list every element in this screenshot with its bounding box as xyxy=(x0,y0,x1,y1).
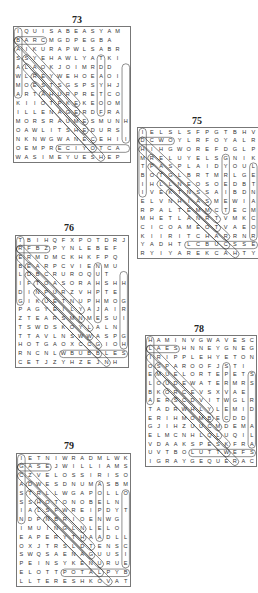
grid-letter: G xyxy=(113,516,122,525)
grid-letter: C xyxy=(240,206,249,215)
grid-letter: N xyxy=(94,262,103,271)
grid-letter: E xyxy=(94,315,103,324)
grid-letter: E xyxy=(26,560,35,569)
grid-letter: U xyxy=(104,551,113,560)
grid-letter: L xyxy=(239,397,247,406)
grid-letter: T xyxy=(97,54,105,63)
grid-letter: C xyxy=(59,262,68,271)
grid-letter: I xyxy=(240,197,249,206)
grid-letter: S xyxy=(166,128,175,137)
grid-letter: E xyxy=(231,449,239,458)
grid-letter: L xyxy=(22,63,30,72)
grid-letter: A xyxy=(87,533,96,542)
grid-letter: E xyxy=(80,135,88,144)
grid-letter: O xyxy=(95,577,104,586)
grid-letter: E xyxy=(180,379,188,388)
grid-letter: A xyxy=(175,249,184,258)
grid-letter: I xyxy=(240,154,249,163)
grid-letter: I xyxy=(113,135,121,144)
grid-letter: N xyxy=(68,245,77,254)
grid-letter: V xyxy=(156,197,165,206)
grid-letter: L xyxy=(197,431,205,440)
grid-letter: E xyxy=(156,154,165,163)
grid-letter: D xyxy=(156,241,165,250)
grid-letter: A xyxy=(154,345,162,354)
grid-letter: V xyxy=(221,223,230,232)
grid-letter: O xyxy=(105,99,113,108)
grid-letter: M xyxy=(138,215,147,224)
grid-letter: A xyxy=(31,63,39,72)
grid-letter: D xyxy=(239,414,247,423)
grid-letter: R xyxy=(138,206,147,215)
grid-letter: T xyxy=(52,498,61,507)
grid-letter xyxy=(119,245,128,254)
grid-letter: R xyxy=(47,117,55,126)
grid-letter: B xyxy=(121,568,130,577)
grid-letter: M xyxy=(197,414,205,423)
grid-letter: P xyxy=(64,45,72,54)
grid-letter: N xyxy=(69,498,78,507)
grid-letter: M xyxy=(230,215,239,224)
grid-letter: T xyxy=(231,362,239,371)
grid-letter: F xyxy=(231,440,239,449)
grid-letter: L xyxy=(240,137,249,146)
grid-letter: I xyxy=(52,454,61,463)
grid-letter: B xyxy=(33,245,42,254)
grid-letter: M xyxy=(249,206,258,215)
grid-letter: I xyxy=(239,362,247,371)
grid-letter: M xyxy=(163,431,171,440)
grid-letter: R xyxy=(105,108,113,117)
grid-letter: L xyxy=(146,379,154,388)
grid-letter: G xyxy=(89,36,97,45)
grid-letter: A xyxy=(154,405,162,414)
grid-letter: A xyxy=(55,108,63,117)
grid-letter: L xyxy=(104,454,113,463)
grid-letter: L xyxy=(154,431,162,440)
grid-letter: P xyxy=(197,440,205,449)
grid-letter: R xyxy=(248,397,256,406)
grid-letter: C xyxy=(180,388,188,397)
grid-letter: I xyxy=(22,45,30,54)
grid-letter: O xyxy=(193,180,202,189)
grid-letter: T xyxy=(240,249,249,258)
grid-letter: M xyxy=(31,144,39,153)
grid-letter: E xyxy=(31,81,39,90)
grid-letter: H xyxy=(175,197,184,206)
grid-letter: C xyxy=(248,336,256,345)
grid-letter: M xyxy=(95,454,104,463)
grid-letter: T xyxy=(212,223,221,232)
grid-letter: A xyxy=(94,332,103,341)
grid-letter: L xyxy=(102,350,111,359)
grid-letter: B xyxy=(205,414,213,423)
grid-letter: R xyxy=(69,507,78,516)
grid-letter: E xyxy=(222,405,230,414)
grid-letter: G xyxy=(69,489,78,498)
grid-letter: S xyxy=(188,440,196,449)
grid-letter: A xyxy=(89,54,97,63)
grid-letter: A xyxy=(154,336,162,345)
grid-letter: C xyxy=(221,241,230,250)
grid-letter: I xyxy=(119,315,128,324)
grid-letter: N xyxy=(87,560,96,569)
grid-letter: S xyxy=(102,315,111,324)
grid-letter: E xyxy=(221,197,230,206)
grid-letter: R xyxy=(34,489,43,498)
grid-letter: U xyxy=(34,524,43,533)
grid-letter: A xyxy=(113,577,122,586)
grid-letter: I xyxy=(147,223,156,232)
grid-letter: G xyxy=(87,551,96,560)
grid-letter: C xyxy=(249,215,258,224)
grid-letter: Y xyxy=(249,249,258,258)
grid-letter: C xyxy=(16,358,25,367)
grid-letter: W xyxy=(14,153,22,162)
grid-letter: A xyxy=(221,249,230,258)
grid-letter: E xyxy=(95,498,104,507)
grid-letter: F xyxy=(193,128,202,137)
grid-letter: G xyxy=(33,306,42,315)
grid-letter: A xyxy=(104,463,113,472)
grid-letter: I xyxy=(102,341,111,350)
grid-letter: O xyxy=(59,341,68,350)
grid-letter: O xyxy=(166,223,175,232)
grid-letter: E xyxy=(249,241,258,250)
grid-letter: I xyxy=(205,397,213,406)
